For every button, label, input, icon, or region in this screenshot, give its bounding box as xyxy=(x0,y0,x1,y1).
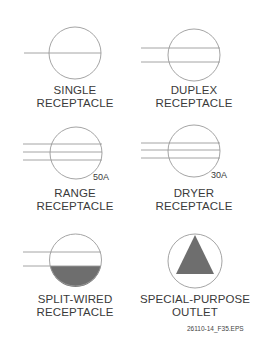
label-line-2: OUTLET xyxy=(135,306,255,319)
label-line-1: DUPLEX xyxy=(149,84,239,97)
dryer-receptacle-label: DRYER RECEPTACLE xyxy=(149,187,239,213)
range-receptacle-label: RANGE RECEPTACLE xyxy=(30,187,120,213)
label-line-1: SPLIT-WIRED xyxy=(25,293,125,306)
label-line-2: RECEPTACLE xyxy=(30,97,120,110)
single-receptacle-symbol xyxy=(24,27,101,79)
duplex-receptacle-label: DUPLEX RECEPTACLE xyxy=(149,84,239,110)
label-line-2: RECEPTACLE xyxy=(149,200,239,213)
special-purpose-outlet-symbol xyxy=(168,234,222,288)
label-line-1: RANGE xyxy=(30,187,120,200)
label-line-1: DRYER xyxy=(149,187,239,200)
label-line-1: SPECIAL-PURPOSE xyxy=(135,293,255,306)
single-receptacle-label: SINGLE RECEPTACLE xyxy=(30,84,120,110)
special-purpose-outlet-label: SPECIAL-PURPOSE OUTLET xyxy=(135,293,255,319)
label-line-2: RECEPTACLE xyxy=(25,306,125,319)
range-receptacle-symbol xyxy=(23,127,102,179)
dryer-receptacle-symbol xyxy=(141,125,220,177)
range-rating: 50A xyxy=(93,172,109,182)
label-line-1: SINGLE xyxy=(30,84,120,97)
figure-id: 26110-14_F35.EPS xyxy=(187,325,244,332)
split-wired-receptacle-label: SPLIT-WIRED RECEPTACLE xyxy=(25,293,125,319)
dryer-rating: 30A xyxy=(211,170,227,180)
label-line-2: RECEPTACLE xyxy=(30,200,120,213)
duplex-receptacle-symbol xyxy=(141,29,220,81)
label-line-2: RECEPTACLE xyxy=(149,97,239,110)
split-wired-receptacle-symbol xyxy=(23,234,102,287)
